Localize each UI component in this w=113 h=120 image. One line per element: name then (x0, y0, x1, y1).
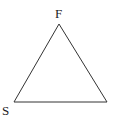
vertex-label-bottom-left: S (2, 103, 9, 118)
triangle-diagram: F S (0, 0, 113, 120)
vertex-label-top: F (55, 6, 62, 21)
triangle (14, 24, 107, 102)
